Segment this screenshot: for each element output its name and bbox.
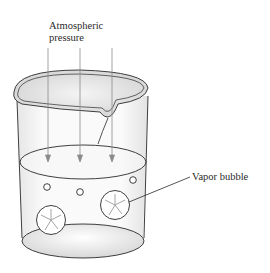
small-bubble-icon [77, 189, 84, 196]
atmospheric-pressure-label: Atmospheric pressure [49, 20, 104, 43]
boiling-beaker-diagram: Atmospheric pressure [0, 0, 270, 273]
vapor-bubble-left [37, 206, 66, 235]
vapor-bubble-right [101, 191, 130, 220]
label-line-2: pressure [49, 32, 84, 43]
small-bubble-icon [44, 184, 51, 191]
liquid-surface [20, 145, 146, 179]
vapor-bubble-label: Vapor bubble [192, 171, 249, 182]
vapor-bubble-callout: Vapor bubble [129, 171, 249, 202]
small-bubble-icon [130, 177, 137, 184]
label-line-1: Atmospheric [49, 20, 104, 31]
